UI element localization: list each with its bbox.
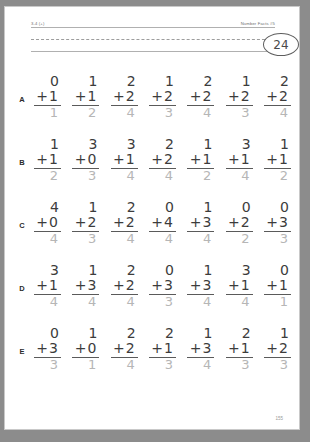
- addend-top: 2: [165, 326, 176, 341]
- operator-and-addend-bottom: +2: [151, 89, 176, 104]
- addend-top: 1: [50, 137, 61, 152]
- addend-bottom: 2: [241, 214, 251, 230]
- exercise-number-badge: 24: [263, 33, 299, 56]
- addition-problem: 0+11: [263, 263, 291, 309]
- addend-top: 1: [88, 326, 99, 341]
- answer-field[interactable]: 1: [88, 358, 99, 372]
- answer-field[interactable]: 4: [126, 295, 137, 309]
- header-right-label: Number Facts #5: [241, 21, 275, 26]
- answer-field[interactable]: 3: [50, 358, 61, 372]
- answer-field[interactable]: 2: [280, 169, 291, 183]
- addend-bottom: 2: [126, 88, 136, 104]
- answer-field[interactable]: 4: [203, 106, 214, 120]
- plus-operator-icon: +: [266, 88, 279, 104]
- operator-and-addend-bottom: +1: [75, 89, 100, 104]
- addition-problem: 1+12: [71, 74, 99, 120]
- answer-field[interactable]: 4: [88, 295, 99, 309]
- addend-bottom: 3: [164, 277, 174, 293]
- addition-problem: 2+24: [110, 263, 138, 309]
- operator-and-addend-bottom: +2: [151, 152, 176, 167]
- answer-field[interactable]: 3: [241, 106, 252, 120]
- addend-bottom: 0: [49, 214, 59, 230]
- answer-field[interactable]: 4: [165, 232, 176, 246]
- answer-field[interactable]: 3: [165, 106, 176, 120]
- answer-field[interactable]: 3: [88, 169, 99, 183]
- plus-operator-icon: +: [228, 151, 241, 167]
- addend-top: 1: [203, 326, 214, 341]
- answer-field[interactable]: 4: [241, 295, 252, 309]
- answer-field[interactable]: 3: [280, 232, 291, 246]
- plus-operator-icon: +: [36, 340, 49, 356]
- operator-and-addend-bottom: +2: [113, 89, 138, 104]
- answer-field[interactable]: 3: [88, 232, 99, 246]
- plus-operator-icon: +: [151, 277, 164, 293]
- plus-operator-icon: +: [151, 340, 164, 356]
- answer-field[interactable]: 1: [280, 295, 291, 309]
- answer-field[interactable]: 1: [50, 106, 61, 120]
- answer-field[interactable]: 4: [280, 106, 291, 120]
- addend-top: 0: [50, 326, 61, 341]
- answer-field[interactable]: 3: [165, 295, 176, 309]
- addition-problem: 0+33: [33, 326, 61, 372]
- addition-problem: 1+34: [186, 263, 214, 309]
- addend-top: 2: [203, 74, 214, 89]
- addend-top: 2: [280, 74, 291, 89]
- problem-row: D3+141+342+240+331+343+140+11: [5, 254, 300, 317]
- answer-field[interactable]: 4: [50, 232, 61, 246]
- answer-field[interactable]: 3: [280, 358, 291, 372]
- row-label-e: E: [17, 347, 27, 356]
- addend-bottom: 1: [279, 151, 289, 167]
- plus-operator-icon: +: [36, 88, 49, 104]
- addend-top: 0: [280, 263, 291, 278]
- answer-field[interactable]: 4: [165, 169, 176, 183]
- problem-group: 3+141+342+240+331+343+140+11: [33, 254, 291, 317]
- plus-operator-icon: +: [266, 340, 279, 356]
- answer-field[interactable]: 2: [241, 232, 252, 246]
- plus-operator-icon: +: [113, 88, 126, 104]
- addend-bottom: 2: [87, 214, 97, 230]
- answer-field[interactable]: 4: [50, 295, 61, 309]
- answer-field[interactable]: 4: [203, 232, 214, 246]
- addition-problem: 2+24: [110, 200, 138, 246]
- addend-top: 3: [50, 263, 61, 278]
- answer-field[interactable]: 3: [241, 358, 252, 372]
- addition-problem: 1+23: [263, 326, 291, 372]
- answer-field[interactable]: 2: [88, 106, 99, 120]
- answer-field[interactable]: 4: [203, 295, 214, 309]
- answer-field[interactable]: 4: [203, 358, 214, 372]
- operator-and-addend-bottom: +0: [75, 152, 100, 167]
- page-footer-number: 155: [275, 416, 283, 421]
- plus-operator-icon: +: [266, 277, 279, 293]
- plus-operator-icon: +: [75, 88, 88, 104]
- answer-field[interactable]: 2: [50, 169, 61, 183]
- addend-top: 4: [50, 200, 61, 215]
- addend-top: 3: [88, 137, 99, 152]
- row-label-c: C: [17, 221, 27, 230]
- answer-field[interactable]: 4: [126, 358, 137, 372]
- addend-bottom: 1: [49, 277, 59, 293]
- addend-bottom: 1: [49, 88, 59, 104]
- answer-field[interactable]: 4: [126, 169, 137, 183]
- addend-top: 1: [203, 263, 214, 278]
- operator-and-addend-bottom: +3: [75, 278, 100, 293]
- addend-top: 3: [242, 263, 253, 278]
- addend-top: 0: [165, 200, 176, 215]
- header-rule-top: [31, 27, 275, 28]
- addition-problem: 0+11: [33, 74, 61, 120]
- answer-field[interactable]: 4: [126, 232, 137, 246]
- operator-and-addend-bottom: +4: [151, 215, 176, 230]
- header-rule-bottom: [31, 51, 275, 52]
- plus-operator-icon: +: [113, 340, 126, 356]
- plus-operator-icon: +: [228, 214, 241, 230]
- answer-field[interactable]: 2: [203, 169, 214, 183]
- answer-field[interactable]: 4: [126, 106, 137, 120]
- answer-field[interactable]: 4: [241, 169, 252, 183]
- addend-top: 2: [127, 263, 138, 278]
- addition-problem: 1+23: [71, 200, 99, 246]
- plus-operator-icon: +: [113, 151, 126, 167]
- addend-bottom: 1: [126, 151, 136, 167]
- addend-top: 0: [50, 74, 61, 89]
- row-label-d: D: [17, 284, 27, 293]
- addend-top: 2: [242, 326, 253, 341]
- answer-field[interactable]: 3: [165, 358, 176, 372]
